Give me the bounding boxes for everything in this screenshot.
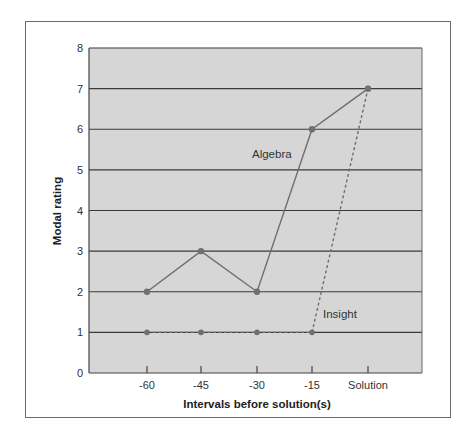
y-tick-label: 4 [77, 205, 83, 217]
series-label-algebra: Algebra [252, 148, 292, 160]
data-point [144, 330, 150, 336]
y-tick-label: 6 [77, 123, 83, 135]
x-tick-label: -60 [139, 379, 155, 391]
y-axis-title: Modal rating [51, 177, 63, 245]
y-tick-label: 2 [77, 286, 83, 298]
y-tick-label: 0 [77, 367, 83, 379]
data-point [144, 289, 150, 295]
y-tick-label: 7 [77, 83, 83, 95]
data-point [254, 330, 260, 336]
series-label-insight: Insight [323, 308, 358, 320]
data-point [365, 86, 371, 92]
y-tick-label: 8 [77, 42, 83, 54]
x-tick-label: -30 [249, 379, 265, 391]
x-tick-label: Solution [348, 379, 388, 391]
line-chart: 012345678 -60-45-30-15Solution Modal rat… [0, 0, 475, 441]
data-point [309, 330, 315, 336]
y-tick-label: 1 [77, 326, 83, 338]
y-tick-label: 3 [77, 245, 83, 257]
data-point [309, 126, 315, 132]
data-point [198, 330, 204, 336]
x-axis-title: Intervals before solution(s) [183, 398, 331, 410]
data-point [198, 248, 204, 254]
x-tick-label: -45 [193, 379, 209, 391]
y-axis-ticks: 012345678 [77, 42, 83, 379]
x-tick-label: -15 [304, 379, 320, 391]
y-tick-label: 5 [77, 164, 83, 176]
data-point [254, 289, 260, 295]
